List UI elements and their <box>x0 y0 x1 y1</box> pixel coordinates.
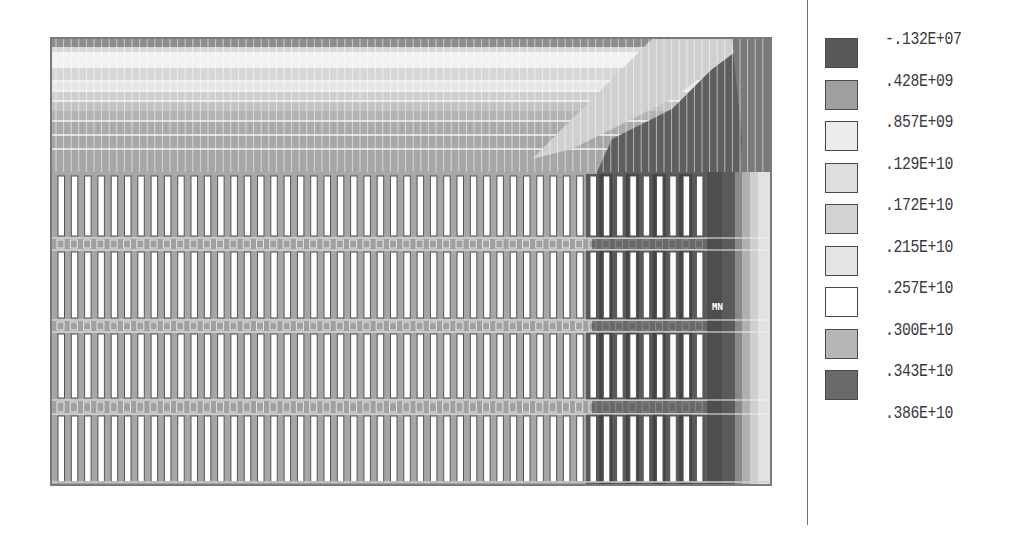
legend-label: -.132E+07 <box>885 28 962 50</box>
legend-swatch <box>825 370 858 400</box>
min-marker-label: MN <box>712 302 723 312</box>
contour-plot-graphic <box>52 39 770 484</box>
legend-label: .129E+10 <box>885 153 953 175</box>
legend-swatch <box>825 329 858 359</box>
legend-label: .300E+10 <box>885 319 953 341</box>
legend-item: .300E+10 <box>825 321 1025 354</box>
legend-item: .386E+10 <box>825 404 1025 437</box>
legend-item: -.132E+07 <box>825 30 1025 63</box>
legend-item: .215E+10 <box>825 238 1025 271</box>
legend-swatch <box>825 38 858 68</box>
legend-item: .172E+10 <box>825 196 1025 229</box>
legend-label: .386E+10 <box>885 402 953 424</box>
legend-item: .129E+10 <box>825 155 1025 188</box>
legend-label: .857E+09 <box>885 111 953 133</box>
legend-label: .172E+10 <box>885 194 953 216</box>
legend-item: .343E+10 <box>825 362 1025 395</box>
legend-item: .857E+09 <box>825 113 1025 146</box>
legend-swatch <box>825 163 858 193</box>
legend-swatch <box>825 121 858 151</box>
legend-swatch <box>825 246 858 276</box>
legend-swatch <box>825 287 858 317</box>
legend-label: .215E+10 <box>885 236 953 258</box>
contour-plot: MN <box>50 37 772 486</box>
legend-divider <box>807 0 808 525</box>
legend-swatch <box>825 80 858 110</box>
legend-label: .428E+09 <box>885 70 953 92</box>
legend-swatch <box>825 204 858 234</box>
legend-label: .257E+10 <box>885 277 953 299</box>
legend-label: .343E+10 <box>885 360 953 382</box>
legend-item: .428E+09 <box>825 72 1025 105</box>
legend-item: .257E+10 <box>825 279 1025 312</box>
